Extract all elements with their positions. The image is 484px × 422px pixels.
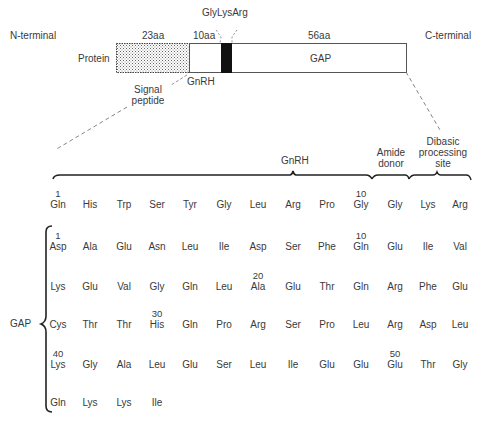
residue-name: Tyr: [173, 199, 207, 210]
residue-number: [41, 386, 75, 397]
precursor-bar: [117, 43, 407, 73]
residue-name: Ser: [207, 359, 241, 370]
residue-name: Gln: [173, 319, 207, 330]
gap-residue: Gly: [140, 270, 174, 292]
residue-name: Leu: [173, 241, 207, 252]
residue-number: [41, 308, 75, 319]
gnrh-residue: Leu: [241, 188, 275, 210]
residue-name: Lys: [41, 281, 75, 292]
residue-number: [207, 308, 241, 319]
gap-residue: Asn: [140, 230, 174, 252]
protein-label: Protein: [78, 53, 110, 64]
residue-number: [411, 188, 445, 199]
gap-residue: Val: [443, 230, 477, 252]
residue-name: Leu: [344, 319, 378, 330]
gap-residue: Leu: [241, 348, 275, 370]
gap-residue: Thr: [411, 348, 445, 370]
residue-name: Ser: [276, 241, 310, 252]
residue-name: Arg: [378, 319, 412, 330]
gnrh-bracket-label: GnRH: [281, 155, 309, 166]
gap-residue: Arg: [378, 308, 412, 330]
residue-number: [241, 188, 275, 199]
gap-residue: Gln: [344, 270, 378, 292]
gap-residue: Glu: [378, 230, 412, 252]
residue-name: Ile: [207, 241, 241, 252]
residue-name: Thr: [411, 359, 445, 370]
gap-residue: Arg: [241, 308, 275, 330]
residue-number: [378, 230, 412, 241]
gap-segment-label: GAP: [310, 53, 331, 64]
residue-number: [173, 348, 207, 359]
gap-residue: Glu: [443, 270, 477, 292]
gap-residue: Phe: [411, 270, 445, 292]
residue-name: Ser: [140, 199, 174, 210]
gap-residue: Lys: [107, 386, 141, 408]
dibasic-processing-site-label: Dibasic processing site: [412, 136, 474, 169]
gap-residue: 1Asp: [41, 230, 75, 252]
gap-residue: Glu: [276, 270, 310, 292]
residue-name: Glu: [173, 359, 207, 370]
residue-number: [310, 348, 344, 359]
residue-name: Glu: [344, 359, 378, 370]
residue-number: [443, 348, 477, 359]
residue-name: Arg: [276, 199, 310, 210]
residue-number: [276, 308, 310, 319]
residue-name: Gly: [207, 199, 241, 210]
residue-name: Leu: [443, 319, 477, 330]
gnrh-segment-label: GnRH: [187, 76, 215, 87]
residue-number: [241, 230, 275, 241]
residue-name: Gln: [344, 281, 378, 292]
residue-name: Leu: [140, 359, 174, 370]
gap-residue: Thr: [73, 308, 107, 330]
gnrh-residue: Trp: [107, 188, 141, 210]
residue-number: [173, 308, 207, 319]
residue-number: [73, 188, 107, 199]
residue-name: Lys: [107, 397, 141, 408]
gap-residue: Gln: [173, 270, 207, 292]
residue-name: Ala: [107, 359, 141, 370]
gap-residue: Glu: [173, 348, 207, 370]
residue-name: Lys: [41, 359, 75, 370]
residue-number: [344, 308, 378, 319]
gap-residue: Asp: [241, 230, 275, 252]
residue-name: Cys: [41, 319, 75, 330]
residue-number: [276, 348, 310, 359]
gap-side-label: GAP: [10, 318, 31, 329]
residue-name: Gln: [41, 199, 75, 210]
residue-number: [41, 270, 75, 281]
residue-number: [443, 230, 477, 241]
residue-number: [140, 386, 174, 397]
gap-residue: 50Glu: [378, 348, 412, 370]
gap-residue: Leu: [140, 348, 174, 370]
gap-residue: Cys: [41, 308, 75, 330]
residue-name: Ile: [411, 241, 445, 252]
residue-number: [344, 348, 378, 359]
gap-length-label: 56aa: [308, 30, 330, 41]
residue-name: Val: [107, 281, 141, 292]
gnrh-residue: 10Gly: [344, 188, 378, 210]
residue-name: Lys: [411, 199, 445, 210]
gap-residue: Thr: [310, 270, 344, 292]
residue-name: Gly: [443, 359, 477, 370]
residue-name: Asp: [241, 241, 275, 252]
gap-residue: Ser: [276, 308, 310, 330]
residue-number: 10: [344, 188, 378, 199]
residue-name: Gln: [41, 397, 75, 408]
residue-number: [241, 348, 275, 359]
gap-residue: Glu: [73, 270, 107, 292]
residue-name: Gly: [378, 199, 412, 210]
gap-residue: 30His: [140, 308, 174, 330]
gnrh-length-label: 10aa: [193, 30, 215, 41]
residue-number: [411, 230, 445, 241]
gap-residue: Ile: [140, 386, 174, 408]
residue-name: Ala: [73, 241, 107, 252]
gap-residue: Glu: [344, 348, 378, 370]
residue-name: Gln: [173, 281, 207, 292]
residue-number: [107, 308, 141, 319]
gap-residue: Glu: [107, 230, 141, 252]
residue-number: [140, 348, 174, 359]
residue-number: [73, 348, 107, 359]
residue-number: [310, 270, 344, 281]
gap-residue: Gln: [41, 386, 75, 408]
residue-number: [73, 230, 107, 241]
